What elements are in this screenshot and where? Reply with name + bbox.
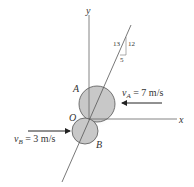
origin-label: O	[69, 112, 76, 123]
velocity-a-label: vA = 7 m/s	[122, 87, 163, 100]
disk-a-label: A	[72, 83, 80, 94]
slope-triangle	[120, 37, 126, 55]
line-of-impact	[62, 25, 131, 182]
slope-hyp-label: 13	[113, 40, 121, 48]
disk-b-label: B	[96, 139, 102, 150]
disk-a	[79, 86, 115, 122]
x-axis-label: x	[178, 114, 184, 125]
slope-run-label: 5	[120, 56, 124, 64]
velocity-b-label: vB = 3 m/s	[14, 133, 55, 146]
y-axis-label: y	[85, 5, 91, 16]
collision-diagram: y x O 13 12 5 A B vA = 7 m/s vB = 3 m/s	[0, 0, 194, 187]
slope-rise-label: 12	[128, 40, 136, 48]
